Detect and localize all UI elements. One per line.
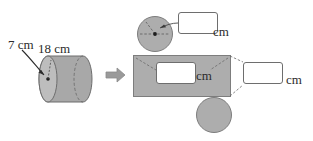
rectangle-height-answer-box[interactable] [243, 62, 283, 84]
rectangle-width-unit-label: cm [196, 69, 212, 82]
radius-unit-label: cm [213, 25, 229, 38]
figure-canvas: 7 cm 18 cm [0, 0, 313, 141]
net-top-circle [137, 16, 173, 52]
rectangle-height-leaders [230, 56, 243, 96]
cylinder-length-label: 18 cm [38, 42, 70, 55]
net-bottom-circle [196, 97, 232, 133]
rectangle-height-unit-label: cm [286, 73, 302, 86]
cylinder-solid [39, 56, 92, 102]
radius-answer-box[interactable] [178, 12, 218, 34]
rectangle-width-answer-box[interactable] [156, 62, 196, 84]
transform-arrow-icon [106, 68, 125, 82]
cylinder-radius-label: 7 cm [8, 38, 34, 51]
